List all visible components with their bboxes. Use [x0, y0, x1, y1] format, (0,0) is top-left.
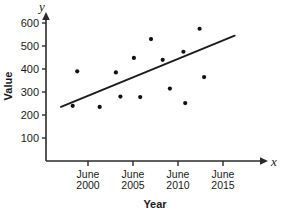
data-point	[202, 75, 206, 79]
data-point	[138, 95, 142, 99]
data-point	[118, 95, 122, 99]
x-tick-label: June2005	[121, 168, 145, 191]
x-axis-arrow-icon	[260, 157, 268, 165]
y-tick-label: 500	[21, 40, 39, 52]
x-axis-tick-labels: June2000June2005June2010June2015	[76, 168, 235, 191]
x-axis-symbol-label: x	[270, 154, 277, 169]
data-point	[183, 101, 187, 105]
data-point	[71, 104, 75, 108]
trend-line	[61, 36, 235, 107]
data-point	[149, 37, 153, 41]
x-tick-label: June2010	[166, 168, 190, 191]
data-points-group	[71, 27, 207, 109]
data-point	[132, 56, 136, 60]
y-axis-title: Value	[2, 72, 14, 101]
y-axis-tick-labels: 100200300400500600	[21, 17, 39, 144]
y-axis-symbol-label: y	[37, 0, 45, 14]
data-point	[98, 105, 102, 109]
y-tick-label: 100	[21, 132, 39, 144]
x-axis-title: Year	[143, 198, 167, 210]
y-tick-label: 600	[21, 17, 39, 29]
data-point	[168, 86, 172, 90]
data-point	[181, 50, 185, 54]
data-point	[161, 58, 165, 62]
x-tick-label: June2000	[76, 168, 100, 191]
chart-canvas: 100200300400500600 June2000June2005June2…	[0, 0, 282, 214]
y-tick-label: 300	[21, 86, 39, 98]
data-point	[75, 69, 79, 73]
y-tick-label: 200	[21, 109, 39, 121]
data-point	[198, 27, 202, 31]
y-tick-label: 400	[21, 63, 39, 75]
x-tick-label: June2015	[211, 168, 235, 191]
scatter-plot-figure: 100200300400500600 June2000June2005June2…	[0, 0, 282, 214]
data-point	[114, 70, 118, 74]
